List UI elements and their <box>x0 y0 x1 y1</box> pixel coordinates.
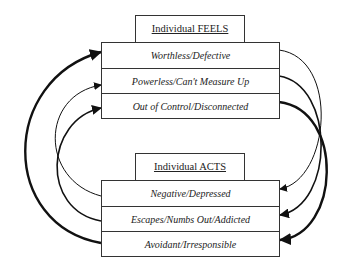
acts-item-avoidant: Avoidant/Irresponsible <box>102 232 279 258</box>
feels-title-box: Individual FEELS <box>135 15 245 43</box>
acts-title-box: Individual ACTS <box>135 153 245 181</box>
feels-item-powerless: Powerless/Can't Measure Up <box>102 69 279 95</box>
feels-item-out-of-control: Out of Control/Disconnected <box>102 94 279 120</box>
acts-item-escapes: Escapes/Numbs Out/Addicted <box>102 207 279 233</box>
acts-list: Negative/Depressed Escapes/Numbs Out/Add… <box>101 180 280 257</box>
arrow-avoidant-to-worthless <box>25 52 101 243</box>
arrow-worthless-to-negative <box>279 50 321 189</box>
feels-item-worthless: Worthless/Defective <box>102 43 279 69</box>
arrow-escapes-to-outofcontrol <box>57 108 101 221</box>
acts-item-negative: Negative/Depressed <box>102 181 279 207</box>
feels-list: Worthless/Defective Powerless/Can't Meas… <box>101 42 280 119</box>
acts-title: Individual ACTS <box>154 161 226 172</box>
feels-title: Individual FEELS <box>152 23 229 34</box>
arrow-powerless-to-escapes <box>279 76 321 215</box>
